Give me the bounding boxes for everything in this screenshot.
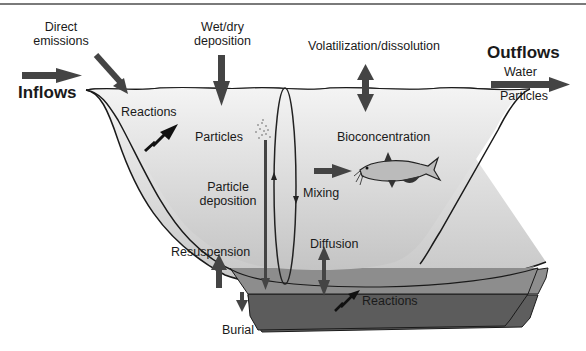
mixing-label: Mixing xyxy=(303,186,339,200)
particles-outflow-label: Particles xyxy=(500,89,548,103)
direct-emissions-line2: emissions xyxy=(26,34,96,48)
particle-deposition-line2: deposition xyxy=(193,194,263,208)
inflows-arrow xyxy=(22,68,82,83)
wet-dry-deposition-label: Wet/dry deposition xyxy=(185,20,260,48)
direct-emissions-label: Direct emissions xyxy=(26,20,96,48)
direct-emissions-line1: Direct xyxy=(26,20,96,34)
particle-deposition-label: Particle deposition xyxy=(193,180,263,208)
bioconcentration-label: Bioconcentration xyxy=(337,130,430,144)
inflows-label: Inflows xyxy=(18,84,77,102)
reactions-water-label: Reactions xyxy=(121,105,177,119)
wet-dry-line1: Wet/dry xyxy=(185,20,260,34)
burial-label: Burial xyxy=(222,323,254,337)
reactions-sediment-label: Reactions xyxy=(362,294,418,308)
particle-deposition-line1: Particle xyxy=(193,180,263,194)
wet-dry-line2: deposition xyxy=(185,34,260,48)
outflows-label: Outflows xyxy=(487,44,560,62)
burial-arrow xyxy=(236,292,248,312)
diffusion-label: Diffusion xyxy=(310,237,358,251)
resuspension-label: Resuspension xyxy=(171,245,250,259)
water-label: Water xyxy=(504,65,537,79)
right-shore-outline xyxy=(538,252,546,268)
particles-label: Particles xyxy=(195,130,243,144)
volatilization-label: Volatilization/dissolution xyxy=(308,39,440,53)
